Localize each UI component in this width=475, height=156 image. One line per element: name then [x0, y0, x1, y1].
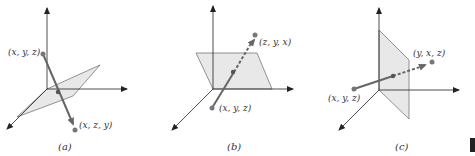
x-axis-b	[172, 89, 213, 130]
cropped-edge-glyph	[470, 138, 475, 152]
label-end-b: (z, y, x)	[259, 37, 292, 47]
point-mid-b	[231, 70, 235, 74]
point-end-c	[430, 60, 435, 65]
label-end-c: (y, x, z)	[413, 48, 446, 58]
reflection-diagram: (x, y, z) (x, z, y) (a) (x, y, z) (z, y,…	[0, 0, 475, 156]
x-axis-a	[7, 89, 47, 129]
label-start-b: (x, y, z)	[219, 103, 252, 113]
caption-b: (b)	[227, 141, 241, 152]
panel-b: (x, y, z) (z, y, x) (b)	[172, 6, 293, 152]
point-mid-c	[391, 74, 395, 78]
point-end-a	[73, 128, 78, 133]
vector-b-tip	[250, 40, 254, 45]
label-start-c: (x, y, z)	[328, 93, 361, 103]
point-start-b	[210, 106, 215, 111]
point-start-c	[352, 87, 357, 92]
label-start-a: (x, y, z)	[8, 47, 41, 57]
label-end-a: (x, z, y)	[79, 120, 113, 130]
caption-a: (a)	[58, 141, 72, 152]
point-end-b	[253, 33, 258, 38]
point-mid-a	[56, 90, 60, 94]
point-start-a	[41, 52, 46, 57]
vector-c-tip	[420, 65, 425, 67]
panel-c: (x, y, z) (y, x, z) (c)	[328, 8, 459, 152]
caption-c: (c)	[395, 141, 409, 152]
panel-a: (x, y, z) (x, z, y) (a)	[7, 8, 127, 152]
